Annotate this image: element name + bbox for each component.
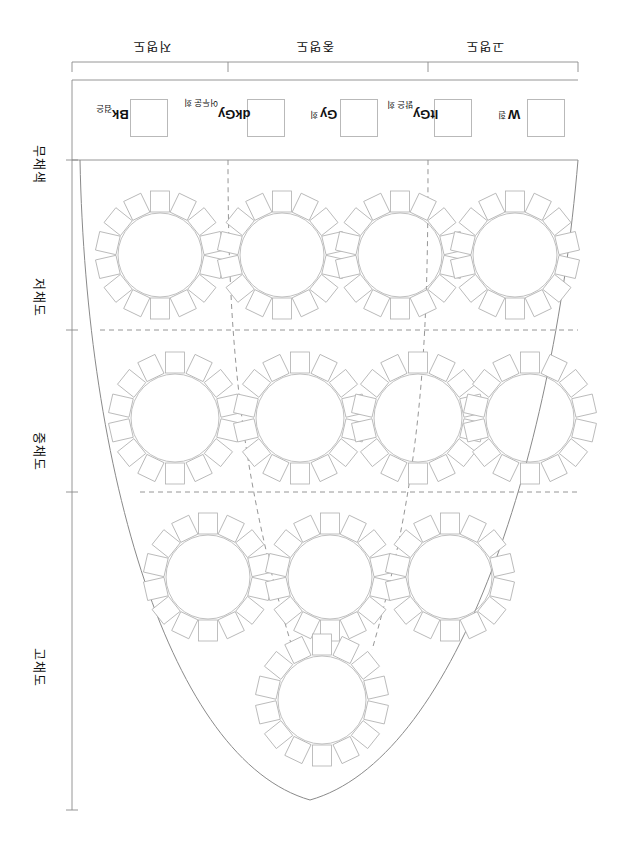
color-wheel-petal[interactable] <box>358 596 386 624</box>
color-wheel-petal[interactable] <box>493 354 519 381</box>
color-wheel-petal[interactable] <box>410 193 436 220</box>
color-wheel-petal[interactable] <box>256 676 281 699</box>
color-wheel-petal[interactable] <box>264 651 292 679</box>
color-wheel-petal[interactable] <box>104 208 132 236</box>
color-wheel-petal[interactable] <box>109 419 134 442</box>
color-wheel-petal[interactable] <box>95 255 120 278</box>
color-wheel-petal[interactable] <box>543 274 571 302</box>
color-wheel-petal[interactable] <box>352 419 377 442</box>
color-wheel-petal[interactable] <box>234 419 259 442</box>
color-wheel-petal[interactable] <box>414 515 440 542</box>
color-wheel-petal[interactable] <box>429 354 455 381</box>
color-wheel-petal[interactable] <box>340 612 366 639</box>
color-wheel-petal[interactable] <box>143 577 168 600</box>
color-wheel-petal[interactable] <box>410 290 436 317</box>
color-wheel-petal[interactable] <box>414 612 440 639</box>
color-wheel-petal[interactable] <box>285 736 311 763</box>
color-wheel-petal[interactable] <box>291 352 310 373</box>
color-wheel-petal[interactable] <box>351 721 379 749</box>
color-wheel-petal[interactable] <box>256 701 281 724</box>
color-wheel-petal[interactable] <box>385 577 410 600</box>
color-wheel-petal[interactable] <box>95 232 120 255</box>
color-wheel-petal[interactable] <box>263 454 289 481</box>
color-wheel-petal[interactable] <box>117 369 145 397</box>
color-wheel-petal[interactable] <box>204 439 232 467</box>
color-wheel-petal[interactable] <box>360 439 388 467</box>
color-wheel-petal[interactable] <box>344 274 372 302</box>
color-wheel-petal[interactable] <box>525 290 551 317</box>
color-wheel-petal[interactable] <box>381 354 407 381</box>
color-wheel-petal[interactable] <box>218 515 244 542</box>
color-wheel-petal[interactable] <box>460 515 486 542</box>
color-wheel-petal[interactable] <box>541 354 567 381</box>
color-wheel-petal[interactable] <box>572 394 597 417</box>
color-wheel-petal[interactable] <box>265 554 290 577</box>
color-wheel-petal[interactable] <box>321 513 340 534</box>
color-wheel-petal[interactable] <box>204 369 232 397</box>
color-wheel-petal[interactable] <box>311 354 337 381</box>
color-wheel-petal[interactable] <box>429 454 455 481</box>
color-wheel-petal[interactable] <box>236 596 264 624</box>
color-wheel-petal[interactable] <box>493 454 519 481</box>
color-wheel-petal[interactable] <box>166 463 185 484</box>
color-wheel-petal[interactable] <box>117 439 145 467</box>
color-wheel-petal[interactable] <box>521 352 540 373</box>
color-wheel-petal[interactable] <box>450 232 475 255</box>
color-wheel-petal[interactable] <box>364 676 389 699</box>
color-wheel-petal[interactable] <box>188 208 216 236</box>
color-wheel-petal[interactable] <box>138 354 164 381</box>
color-wheel-petal[interactable] <box>172 515 198 542</box>
color-wheel-petal[interactable] <box>124 193 150 220</box>
color-wheel-petal[interactable] <box>152 530 180 558</box>
color-wheel-petal[interactable] <box>274 530 302 558</box>
color-wheel-petal[interactable] <box>170 193 196 220</box>
color-wheel-petal[interactable] <box>364 193 390 220</box>
swatch-box-w[interactable] <box>527 99 565 137</box>
color-wheel-petal[interactable] <box>329 369 357 397</box>
color-wheel-petal[interactable] <box>409 463 428 484</box>
color-wheel-petal[interactable] <box>459 208 487 236</box>
color-wheel-petal[interactable] <box>242 439 270 467</box>
color-wheel-petal[interactable] <box>313 745 332 766</box>
color-wheel-petal[interactable] <box>441 620 460 641</box>
color-wheel-petal[interactable] <box>242 369 270 397</box>
color-wheel-petal[interactable] <box>344 208 372 236</box>
color-wheel-petal[interactable] <box>170 290 196 317</box>
color-wheel-petal[interactable] <box>109 394 134 417</box>
color-wheel-petal[interactable] <box>151 191 170 212</box>
color-wheel-petal[interactable] <box>447 369 475 397</box>
color-wheel-petal[interactable] <box>226 208 254 236</box>
color-wheel-petal[interactable] <box>217 232 242 255</box>
color-wheel-petal[interactable] <box>490 554 515 577</box>
color-wheel-petal[interactable] <box>273 191 292 212</box>
color-wheel-petal[interactable] <box>479 193 505 220</box>
color-wheel-petal[interactable] <box>394 530 422 558</box>
color-wheel-petal[interactable] <box>104 274 132 302</box>
color-wheel-petal[interactable] <box>459 274 487 302</box>
color-wheel-petal[interactable] <box>335 255 360 278</box>
color-wheel-petal[interactable] <box>152 596 180 624</box>
color-wheel-petal[interactable] <box>172 612 198 639</box>
color-wheel-petal[interactable] <box>124 290 150 317</box>
color-wheel-petal[interactable] <box>186 454 212 481</box>
color-wheel-petal[interactable] <box>364 290 390 317</box>
color-wheel-petal[interactable] <box>506 298 525 319</box>
color-wheel-petal[interactable] <box>218 612 244 639</box>
color-wheel-petal[interactable] <box>294 515 320 542</box>
color-wheel-petal[interactable] <box>265 577 290 600</box>
color-wheel-petal[interactable] <box>151 298 170 319</box>
color-wheel-petal[interactable] <box>310 274 338 302</box>
color-wheel-petal[interactable] <box>385 554 410 577</box>
color-wheel-petal[interactable] <box>292 290 318 317</box>
swatch-box-dkgy[interactable] <box>247 99 285 137</box>
color-wheel-petal[interactable] <box>358 530 386 558</box>
color-wheel-petal[interactable] <box>166 352 185 373</box>
color-wheel-petal[interactable] <box>428 274 456 302</box>
color-wheel-petal[interactable] <box>199 620 218 641</box>
color-wheel-petal[interactable] <box>234 394 259 417</box>
color-wheel-petal[interactable] <box>559 369 587 397</box>
color-wheel-petal[interactable] <box>188 274 216 302</box>
color-wheel-petal[interactable] <box>464 394 489 417</box>
color-wheel-petal[interactable] <box>409 352 428 373</box>
color-wheel-petal[interactable] <box>138 454 164 481</box>
